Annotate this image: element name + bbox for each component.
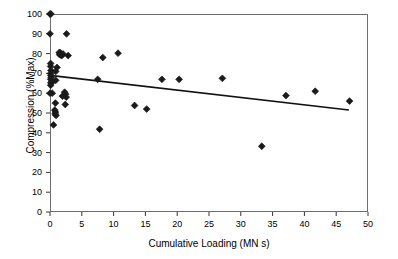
scatter-point — [346, 98, 353, 105]
x-axis-title: Cumulative Loading (MN s) — [0, 238, 398, 249]
plot-canvas — [50, 14, 368, 212]
y-tick-label: 90 — [0, 29, 42, 38]
x-tick-label: 0 — [47, 220, 52, 229]
trend-line-segment — [50, 75, 349, 110]
x-tick-label: 30 — [236, 220, 246, 229]
x-tick-label: 50 — [363, 220, 373, 229]
scatter-point — [283, 92, 290, 99]
scatter-point — [143, 106, 150, 113]
y-tick-label: 40 — [0, 128, 42, 137]
x-tick-label: 20 — [172, 220, 182, 229]
y-tick-label: 0 — [0, 208, 42, 217]
x-axis-ticks — [50, 212, 368, 216]
scatter-point — [219, 75, 226, 82]
scatter-point — [99, 54, 106, 61]
y-axis-ticks — [46, 14, 50, 212]
y-tick-label: 50 — [0, 109, 42, 118]
y-tick-label: 30 — [0, 148, 42, 157]
y-tick-label: 70 — [0, 69, 42, 78]
scatter-point — [63, 30, 70, 37]
scatter-point — [96, 126, 103, 133]
x-tick-label: 45 — [331, 220, 341, 229]
scatter-point — [50, 121, 57, 128]
scatter-point — [312, 88, 319, 95]
scatter-point — [131, 102, 138, 109]
trend-line — [50, 75, 349, 110]
scatter-point — [258, 143, 265, 150]
y-tick-label: 100 — [0, 10, 42, 19]
y-tick-label: 60 — [0, 89, 42, 98]
scatter-point — [62, 101, 69, 108]
y-tick-label: 80 — [0, 49, 42, 58]
scatter-point — [47, 30, 54, 37]
x-tick-label: 5 — [79, 220, 84, 229]
chart-figure: 0102030405060708090100 05101520253035404… — [0, 0, 398, 259]
x-axis-title-text: Cumulative Loading (MN s) — [148, 238, 269, 249]
y-tick-label: 10 — [0, 188, 42, 197]
x-tick-label: 40 — [299, 220, 309, 229]
x-tick-label: 35 — [268, 220, 278, 229]
y-axis-title: Compression (%Max) — [25, 6, 36, 206]
scatter-point — [115, 50, 122, 57]
scatter-point — [176, 76, 183, 83]
scatter-point — [52, 100, 59, 107]
x-tick-label: 25 — [204, 220, 214, 229]
x-tick-label: 10 — [109, 220, 119, 229]
x-tick-label: 15 — [140, 220, 150, 229]
scatter-point — [159, 76, 166, 83]
y-tick-label: 20 — [0, 168, 42, 177]
